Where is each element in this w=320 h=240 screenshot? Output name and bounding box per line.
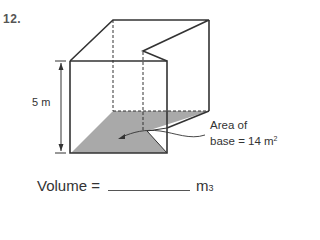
area-label-line2: base = 14 m2 bbox=[210, 132, 278, 148]
volume-exponent: 3 bbox=[208, 183, 213, 193]
height-label: 5 m bbox=[32, 96, 50, 108]
area-value: base = 14 m bbox=[210, 135, 274, 147]
arrow-up-icon bbox=[59, 63, 64, 70]
base-area-label: Area of base = 14 m2 bbox=[210, 119, 278, 148]
arrow-down-icon bbox=[59, 144, 64, 151]
answer-blank[interactable] bbox=[108, 178, 190, 191]
area-label-line1: Area of bbox=[210, 119, 278, 132]
volume-answer-line: Volume = m3 bbox=[37, 177, 213, 194]
height-dimension bbox=[55, 61, 66, 153]
area-exponent: 2 bbox=[274, 135, 278, 142]
volume-label: Volume = bbox=[37, 177, 100, 194]
shaded-base bbox=[71, 111, 209, 153]
volume-unit: m bbox=[196, 177, 209, 194]
